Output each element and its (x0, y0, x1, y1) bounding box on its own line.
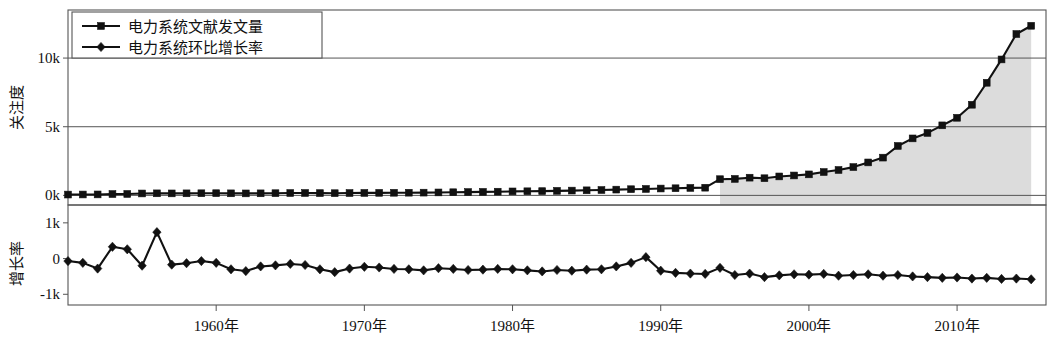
data-point (523, 266, 531, 275)
data-point (286, 259, 294, 268)
data-point (331, 190, 338, 197)
data-point (464, 265, 472, 274)
data-point (197, 256, 205, 265)
legend-label-0: 电力系统文献发文量 (128, 18, 263, 36)
data-point (612, 262, 620, 271)
data-point (923, 273, 931, 282)
data-point (761, 175, 768, 182)
data-point (420, 189, 427, 196)
ytick-label-0k: 0k (45, 187, 61, 203)
data-point (375, 263, 383, 272)
data-point (405, 265, 413, 274)
data-point (834, 271, 842, 280)
data-point (242, 190, 249, 197)
data-point (791, 172, 798, 179)
data-point (894, 270, 902, 279)
data-point (776, 173, 783, 180)
data-point (509, 188, 516, 195)
data-point (316, 265, 324, 274)
data-point (568, 187, 575, 194)
data-point (434, 264, 442, 273)
data-point (908, 272, 916, 281)
data-point (938, 273, 946, 282)
data-point (746, 174, 753, 181)
data-point (376, 189, 383, 196)
data-point (79, 191, 86, 198)
xtick-label-1970: 1970年 (342, 318, 387, 334)
ytick-label-10k: 10k (38, 50, 61, 66)
data-point (686, 269, 694, 278)
data-point (450, 189, 457, 196)
data-point (361, 190, 368, 197)
data-point (64, 256, 72, 265)
data-point (850, 164, 857, 171)
data-point (672, 185, 679, 192)
data-point (271, 261, 279, 270)
data-point (272, 190, 279, 197)
data-point (228, 190, 235, 197)
data-point (301, 260, 309, 269)
data-point (331, 268, 339, 277)
data-point (182, 259, 190, 268)
data-point (198, 190, 205, 197)
data-point (168, 260, 176, 269)
data-point (864, 270, 872, 279)
data-point (1027, 275, 1035, 284)
data-point (168, 190, 175, 197)
data-point (139, 190, 146, 197)
data-point (613, 186, 620, 193)
data-point (508, 265, 516, 274)
data-point (716, 263, 724, 272)
data-point (806, 171, 813, 178)
data-point (109, 191, 116, 198)
data-point (865, 159, 872, 166)
data-point (435, 189, 442, 196)
data-point (687, 185, 694, 192)
data-point (998, 56, 1005, 63)
xtick-label-2000: 2000年 (786, 318, 831, 334)
growth-panel-frame (68, 205, 1046, 305)
data-point (345, 264, 353, 273)
data-point (924, 130, 931, 137)
data-point (969, 101, 976, 108)
data-point (983, 79, 990, 86)
data-point (553, 265, 561, 274)
ytick-label-0: 0 (53, 251, 61, 267)
chart-figure: 10k5k0k1k0-1k关注度增长率1960年1970年1980年1990年2… (0, 0, 1052, 348)
data-point (1028, 22, 1035, 29)
data-point (317, 190, 324, 197)
data-point (360, 262, 368, 271)
data-point (745, 269, 753, 278)
data-point (717, 176, 724, 183)
data-point (153, 228, 161, 237)
data-point (390, 264, 398, 273)
data-point (391, 189, 398, 196)
data-point (494, 264, 502, 273)
y-axis-title-growth: 增长率 (8, 241, 26, 286)
data-point (554, 187, 561, 194)
data-point (256, 262, 264, 271)
data-point (65, 191, 72, 198)
data-point (953, 273, 961, 282)
data-point (242, 266, 250, 275)
data-point (820, 269, 828, 278)
data-point (227, 265, 235, 274)
data-point (154, 190, 161, 197)
data-point (538, 267, 546, 276)
data-point (909, 135, 916, 142)
data-point (968, 274, 976, 283)
ytick-label--1k: -1k (40, 286, 60, 302)
data-point (539, 188, 546, 195)
data-point (124, 191, 131, 198)
data-point (419, 266, 427, 275)
data-point (213, 190, 220, 197)
data-point (702, 184, 709, 191)
data-point (849, 270, 857, 279)
legend-label-1: 电力系统环比增长率 (128, 39, 263, 57)
data-point (939, 122, 946, 129)
data-point (894, 143, 901, 150)
ytick-label-1k: 1k (45, 215, 61, 231)
data-point (790, 270, 798, 279)
data-point (879, 271, 887, 280)
data-point (494, 188, 501, 195)
